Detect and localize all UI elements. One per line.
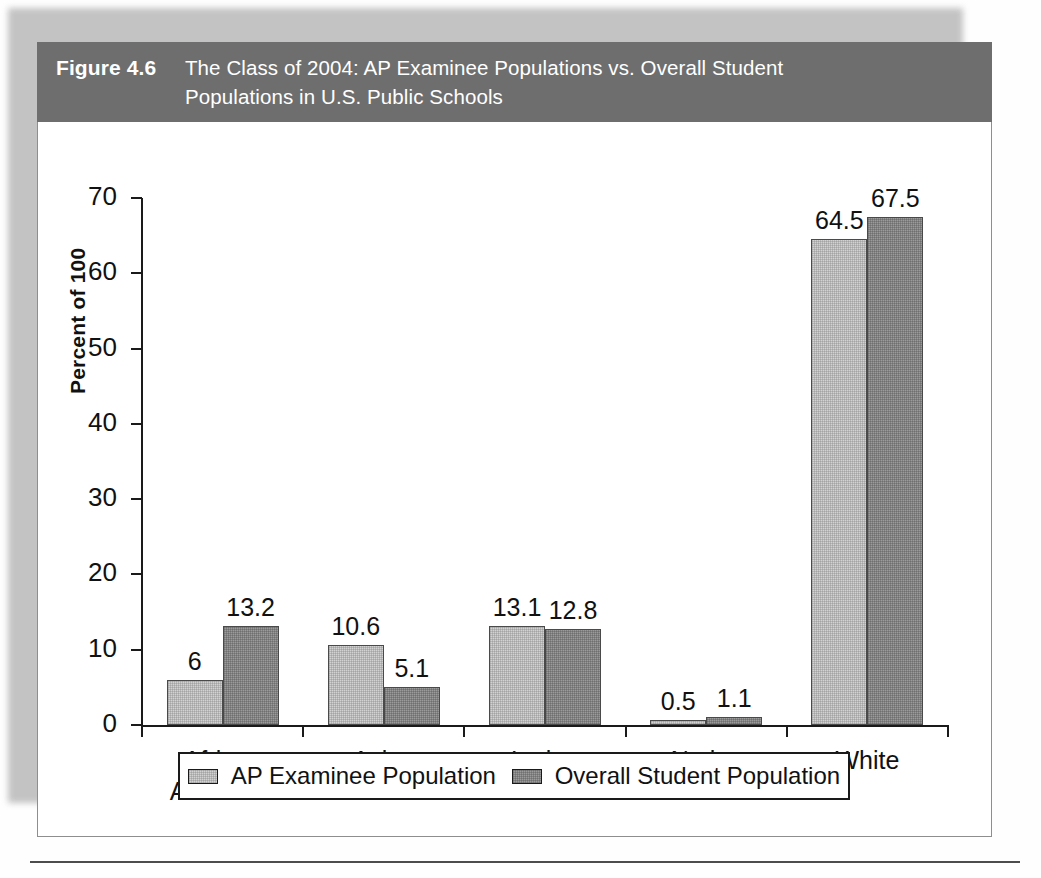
legend-swatch-icon-overall-student xyxy=(512,769,542,784)
figure-title-line-2: Populations in U.S. Public Schools xyxy=(37,82,992,111)
x-axis-tick xyxy=(625,725,627,737)
y-axis-tick-label: 0 xyxy=(103,708,117,739)
y-axis-tick: 40 xyxy=(131,423,142,425)
bar: 10.6 xyxy=(328,645,384,725)
bar-value-label: 6 xyxy=(188,647,202,676)
page-horizontal-rule xyxy=(30,861,1020,863)
y-axis-tick-label: 10 xyxy=(88,633,117,664)
y-axis-tick-label: 60 xyxy=(88,256,117,287)
y-axis-tick-label: 30 xyxy=(88,482,117,513)
bar-value-label: 64.5 xyxy=(815,206,864,235)
x-axis-tick xyxy=(463,725,465,737)
bar: 67.5 xyxy=(867,217,923,725)
bar-value-label: 0.5 xyxy=(661,687,696,716)
bar-value-label: 67.5 xyxy=(871,184,920,213)
bar: 13.1 xyxy=(489,626,545,725)
bar-value-label: 13.2 xyxy=(226,593,275,622)
y-axis-tick: 50 xyxy=(131,348,142,350)
y-axis-tick: 30 xyxy=(131,498,142,500)
figure-header: Figure 4.6The Class of 2004: AP Examinee… xyxy=(37,42,992,122)
bar: 6 xyxy=(167,680,223,725)
y-axis-tick: 10 xyxy=(131,649,142,651)
x-axis-tick xyxy=(786,725,788,737)
legend-swatch-icon-ap-examinee xyxy=(188,769,218,784)
chart-legend: AP Examinee Population Overall Student P… xyxy=(178,752,850,800)
legend-label-overall-student: Overall Student Population xyxy=(555,762,841,790)
y-axis-line xyxy=(141,198,143,726)
bar: 0.5 xyxy=(650,720,706,725)
x-axis-tick xyxy=(302,725,304,737)
bar: 5.1 xyxy=(384,687,440,725)
x-axis-tick xyxy=(141,725,143,737)
y-axis-tick: 60 xyxy=(131,272,142,274)
y-axis-title: Percent of 100 xyxy=(66,248,90,394)
x-axis-tick xyxy=(947,725,949,737)
bar: 64.5 xyxy=(811,239,867,725)
y-axis-tick-label: 50 xyxy=(88,332,117,363)
y-axis-tick-label: 70 xyxy=(88,181,117,212)
figure-title-line-1: The Class of 2004: AP Examinee Populatio… xyxy=(185,53,783,82)
bar: 12.8 xyxy=(545,629,601,725)
y-axis-tick-label: 40 xyxy=(88,407,117,438)
figure: Figure 4.6The Class of 2004: AP Examinee… xyxy=(37,42,992,837)
plot-area: 010203040506070 613.210.65.113.112.80.51… xyxy=(142,198,948,725)
y-axis-tick: 70 xyxy=(131,197,142,199)
bar: 13.2 xyxy=(223,626,279,725)
bar: 1.1 xyxy=(706,717,762,725)
legend-label-ap-examinee: AP Examinee Population xyxy=(231,762,496,790)
bar-value-label: 13.1 xyxy=(493,593,542,622)
bar-value-label: 1.1 xyxy=(717,684,752,713)
legend-item-ap-examinee-population: AP Examinee Population xyxy=(188,762,496,790)
figure-header-line-1: Figure 4.6The Class of 2004: AP Examinee… xyxy=(37,53,992,82)
x-axis-line xyxy=(141,725,949,727)
bar-value-label: 5.1 xyxy=(394,654,429,683)
bar-value-label: 12.8 xyxy=(549,596,598,625)
figure-number: Figure 4.6 xyxy=(37,53,185,82)
bar-value-label: 10.6 xyxy=(331,612,380,641)
y-axis-tick-label: 20 xyxy=(88,557,117,588)
y-axis-tick: 20 xyxy=(131,573,142,575)
legend-item-overall-student-population: Overall Student Population xyxy=(512,762,841,790)
chart-body: Percent of 100 010203040506070 613.210.6… xyxy=(37,122,992,837)
